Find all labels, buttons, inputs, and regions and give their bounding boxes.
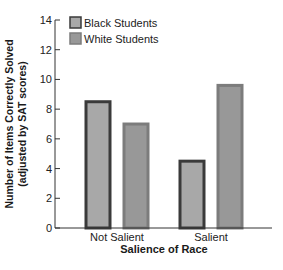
- bar-white-students-not-salient: [124, 124, 148, 228]
- x-axis-label: Salience of Race: [120, 243, 207, 255]
- bar-black-students-salient: [180, 161, 204, 228]
- legend-swatch: [70, 33, 81, 44]
- y-tick-label: 2: [46, 192, 52, 204]
- y-tick-label: 4: [46, 163, 52, 175]
- x-tick-label: Not Salient: [90, 231, 144, 243]
- y-tick-label: 0: [46, 222, 52, 234]
- legend-label: White Students: [84, 33, 159, 45]
- y-tick-label: 10: [40, 73, 52, 85]
- y-axis-label-line2: (adjusted by SAT scores): [16, 61, 28, 186]
- y-tick-label: 14: [40, 14, 52, 26]
- y-tick-label: 6: [46, 133, 52, 145]
- x-tick-label: Salient: [194, 231, 228, 243]
- bars: [86, 85, 242, 228]
- x-axis: Not SalientSalient: [55, 228, 272, 243]
- bar-chart: Number of Items Correctly Solved (adjust…: [0, 0, 283, 270]
- legend: Black StudentsWhite Students: [70, 17, 159, 45]
- bar-white-students-salient: [218, 85, 242, 228]
- legend-label: Black Students: [84, 17, 158, 29]
- legend-swatch: [70, 17, 81, 28]
- y-axis-label: Number of Items Correctly Solved (adjust…: [3, 39, 28, 208]
- bar-black-students-not-salient: [86, 102, 110, 228]
- y-tick-label: 12: [40, 44, 52, 56]
- y-axis-label-line1: Number of Items Correctly Solved: [3, 39, 15, 208]
- y-axis: 02468101214: [40, 14, 60, 234]
- y-tick-label: 8: [46, 103, 52, 115]
